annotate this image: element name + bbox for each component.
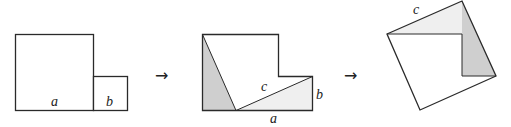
label-c: c <box>261 79 268 94</box>
pythagoras-dissection-diagram: a b → c b a → c <box>0 0 511 127</box>
panel-1: a b <box>16 35 128 111</box>
panel-3: c <box>387 1 496 110</box>
arrow-right-icon: → <box>155 66 168 85</box>
label-a: a <box>51 94 58 109</box>
arrow-right-icon: → <box>344 66 357 85</box>
label-b: b <box>316 87 323 102</box>
label-b: b <box>106 94 113 109</box>
panel-2: c b a <box>203 35 324 127</box>
label-c: c <box>413 2 420 17</box>
label-a: a <box>270 111 277 126</box>
